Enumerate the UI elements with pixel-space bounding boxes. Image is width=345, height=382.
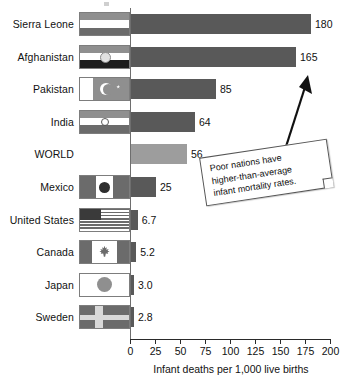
category-label-japan: Japan: [0, 269, 74, 301]
chart-row: Pakistan 85: [0, 73, 345, 105]
chart-row: Sweden 2.8: [0, 301, 345, 333]
bar-united-states: [131, 210, 138, 230]
bar-world: [131, 144, 187, 164]
value-label-sweden: 2.8: [134, 307, 153, 327]
chart-row: United States 6.7: [0, 204, 345, 236]
flag-sweden-icon: [79, 305, 130, 329]
top-artifact-mark: [104, 2, 109, 6]
tick-mark: [130, 339, 131, 344]
bar-pakistan: [131, 79, 216, 99]
tick-label: 50: [175, 345, 187, 357]
tick-mark: [305, 339, 306, 344]
flag-canada-icon: [79, 240, 130, 264]
chart-row: Japan 3.0: [0, 269, 345, 301]
chart-row: Sierra Leone 180: [0, 8, 345, 40]
category-label-india: India: [0, 106, 74, 138]
value-label-afghanistan: 165: [296, 47, 318, 67]
bar-sierra-leone: [131, 14, 311, 34]
tick-label: 175: [297, 345, 315, 357]
tick-label: 125: [247, 345, 265, 357]
chart-row: India 64: [0, 106, 345, 138]
tick-mark: [155, 339, 156, 344]
category-label-mexico: Mexico: [0, 171, 74, 203]
tick-label: 100: [222, 345, 240, 357]
value-label-india: 64: [195, 112, 211, 132]
bar-india: [131, 112, 195, 132]
chart-row: Canada 5.2: [0, 236, 345, 268]
flag-india-icon: [79, 110, 130, 134]
callout-fold-corner: [323, 177, 334, 188]
category-label-sierra-leone: Sierra Leone: [0, 8, 74, 40]
category-label-sweden: Sweden: [0, 301, 74, 333]
value-label-pakistan: 85: [216, 79, 232, 99]
axis-title: Infant deaths per 1,000 live births: [131, 363, 331, 375]
flag-united-states-icon: [79, 208, 130, 232]
tick-label: 75: [200, 345, 212, 357]
chart-row: Afghanistan 165: [0, 41, 345, 73]
value-label-sierra-leone: 180: [311, 14, 333, 34]
tick-mark: [205, 339, 206, 344]
axis-vertical-line: [130, 8, 131, 339]
flag-mexico-icon: [79, 175, 130, 199]
tick-label: 150: [272, 345, 290, 357]
tick-mark: [230, 339, 231, 344]
category-label-world: WORLD: [0, 138, 74, 170]
flag-japan-icon: [79, 273, 130, 297]
category-label-united-states: United States: [0, 204, 74, 236]
bar-afghanistan: [131, 47, 296, 67]
value-label-japan: 3.0: [134, 275, 153, 295]
value-label-mexico: 25: [156, 177, 172, 197]
value-label-canada: 5.2: [136, 242, 155, 262]
category-label-afghanistan: Afghanistan: [0, 41, 74, 73]
tick-label: 25: [150, 345, 162, 357]
tick-mark: [255, 339, 256, 344]
flag-pakistan-icon: [79, 77, 130, 101]
tick-mark: [180, 339, 181, 344]
flag-sierra-leone-icon: [79, 12, 130, 36]
flag-afghanistan-icon: [79, 45, 130, 69]
tick-mark: [330, 339, 331, 344]
category-label-pakistan: Pakistan: [0, 73, 74, 105]
category-label-canada: Canada: [0, 236, 74, 268]
tick-label: 0: [128, 345, 134, 357]
tick-mark: [280, 339, 281, 344]
bar-mexico: [131, 177, 156, 197]
tick-label: 200: [322, 345, 340, 357]
infant-mortality-bar-chart: Sierra Leone 180Afghanistan 165Pakistan …: [0, 0, 345, 382]
value-label-united-states: 6.7: [138, 210, 157, 230]
